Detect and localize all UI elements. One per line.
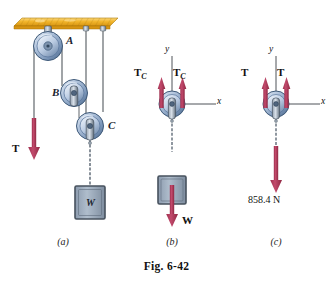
axis-label-y-b: y <box>165 44 169 54</box>
chain-c <box>275 119 278 146</box>
force-arrow-weight-c <box>270 146 282 193</box>
pulley-c-label: C <box>108 119 116 131</box>
pulley-a <box>34 26 63 61</box>
panel-caption-b: (b) <box>157 236 187 247</box>
pulley-b <box>61 80 88 107</box>
physics-figure: A B C <box>0 0 333 283</box>
pulley-b-label: B <box>51 86 59 98</box>
force-label-T-right-c: T <box>277 66 284 81</box>
panel-caption-a: (a) <box>48 236 78 247</box>
force-label-T-a: T <box>12 142 19 154</box>
panel-b <box>158 56 216 227</box>
axis-label-x-c: x <box>321 96 325 106</box>
panel-c <box>262 56 320 193</box>
force-label-W-b: W <box>182 214 193 226</box>
chain-b <box>171 119 174 152</box>
force-label-TC-right-b: TC <box>173 66 186 81</box>
pulley-c <box>77 113 104 141</box>
figure-caption: Fig. 6-42 <box>0 260 333 272</box>
axis-label-y-c: y <box>269 44 273 54</box>
force-arrow-T-a <box>28 118 40 160</box>
panel-caption-c: (c) <box>261 236 291 247</box>
chain-a <box>88 140 91 186</box>
force-label-weight-c: 858.4 N <box>248 194 280 205</box>
weight-block-a-label: W <box>86 197 96 208</box>
pulley-a-label: A <box>65 34 73 46</box>
force-label-T-left-c: T <box>241 66 248 81</box>
force-label-TC-left-b: TC <box>134 66 147 81</box>
axis-label-x-b: x <box>217 96 221 106</box>
panel-a: A B C <box>14 18 118 219</box>
